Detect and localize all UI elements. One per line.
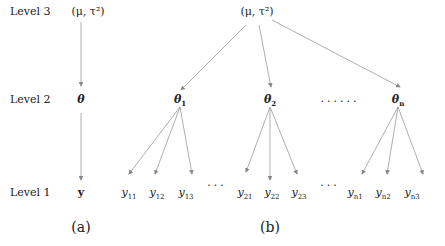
theta-1: θ1 [174,93,186,108]
y-23: y23 [291,186,306,201]
panel-a-theta: θ [77,93,84,106]
theta-ellipsis: ...... [321,92,360,105]
level-2-label: Level 2 [10,93,51,106]
y-n2: yn2 [375,186,390,201]
level-1-label: Level 1 [10,186,51,199]
panel-a-y: y [78,186,84,199]
y-n3: yn3 [404,186,419,201]
y-22: y22 [264,186,279,201]
y-ellipsis-1: ... [207,176,227,189]
y-ellipsis-2: ... [320,176,340,189]
panel-b-caption: (b) [260,219,280,235]
hierarchical-model-diagram: Level 3 Level 2 Level 1 (μ, τ²) θ y (a) … [0,0,445,246]
y-12: y12 [149,186,164,201]
arrows-layer [0,0,445,246]
level-3-label: Level 3 [10,5,51,18]
theta-2: θ2 [264,93,276,108]
y-n1: yn1 [347,186,362,201]
panel-b-hyperparameters: (μ, τ²) [240,5,273,18]
theta-n: θn [392,93,404,108]
panel-a-caption: (a) [71,219,90,235]
panel-a-hyperparameters: (μ, τ²) [71,5,104,18]
y-21: y21 [237,186,252,201]
y-13: y13 [178,186,193,201]
y-11: y11 [121,186,136,201]
